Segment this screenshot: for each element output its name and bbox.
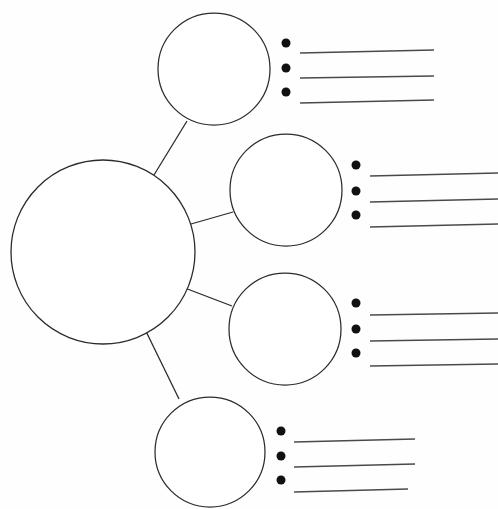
subtopic-circle-4[interactable] [155,397,265,507]
bullet-dot-icon [352,211,361,220]
bullet-dot-icon [277,476,286,485]
worksheet-canvas [0,0,498,509]
subtopic-circle-3[interactable] [229,273,341,385]
bullet-dot-icon [352,299,361,308]
write-line-2-2[interactable] [370,199,498,202]
subtopic-circle-2[interactable] [230,134,342,246]
bullet-dot-icon [282,64,291,73]
concept-map-diagram [0,0,498,509]
bullet-dot-icon [282,39,291,48]
write-line-1-1[interactable] [300,50,434,53]
write-line-3-1[interactable] [370,313,498,315]
write-line-2-1[interactable] [370,173,498,176]
bullet-dot-icon [352,161,361,170]
bullet-lists-group [277,39,498,493]
main-topic-circle[interactable] [11,160,195,344]
bullet-dot-icon [352,325,361,334]
write-line-3-3[interactable] [370,364,498,366]
write-line-1-3[interactable] [300,100,434,103]
bullet-dot-icon [282,88,291,97]
write-line-4-2[interactable] [294,464,415,467]
write-line-3-2[interactable] [370,339,498,341]
bullet-dot-icon [277,452,286,461]
bullet-dot-icon [352,349,361,358]
bullet-dot-icon [277,427,286,436]
write-line-1-2[interactable] [300,76,434,78]
write-line-4-3[interactable] [294,489,408,492]
write-line-4-1[interactable] [294,439,415,442]
bullet-dot-icon [352,187,361,196]
subtopic-circle-1[interactable] [158,13,270,125]
write-line-2-3[interactable] [370,224,498,227]
node-circles-group [11,13,342,507]
